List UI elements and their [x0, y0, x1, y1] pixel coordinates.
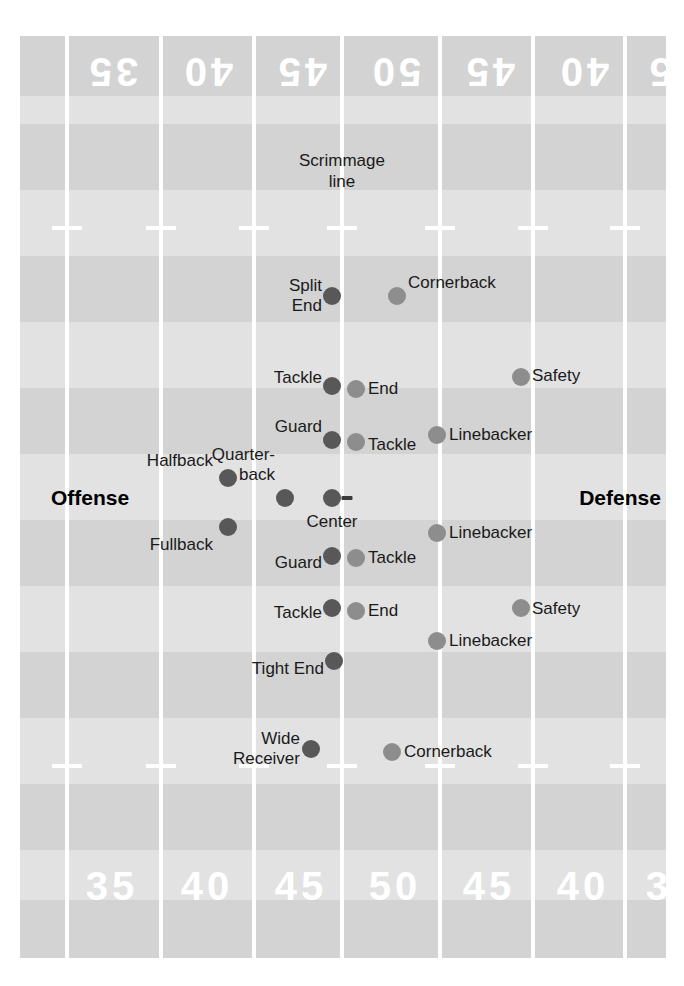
player-label-guard-lower: Guard	[275, 553, 322, 573]
player-marker-end-lower[interactable]	[347, 602, 365, 620]
hash-mark	[146, 764, 176, 768]
yard-number-top: 35	[628, 52, 666, 92]
player-label-tackle-upper: Tackle	[274, 368, 322, 388]
yard-number-top: 35	[68, 52, 156, 92]
player-label-tackle-def-upper: Tackle	[368, 435, 416, 455]
player-marker-fullback[interactable]	[219, 518, 237, 536]
player-label-tight-end: Tight End	[252, 659, 324, 679]
player-label-cornerback-1: Cornerback	[408, 273, 496, 293]
player-marker-tackle-def-lower[interactable]	[347, 549, 365, 567]
player-label-tackle-def-lower: Tackle	[368, 548, 416, 568]
yard-line	[438, 36, 442, 958]
player-marker-end-upper[interactable]	[347, 380, 365, 398]
player-label-safety-upper: Safety	[532, 366, 580, 386]
player-label-tackle-lower: Tackle	[274, 603, 322, 623]
defense-side-label: Defense	[579, 486, 661, 510]
yard-line	[531, 36, 535, 958]
yard-number-bottom: 40	[163, 866, 251, 906]
player-label-wide-receiver: Wide Receiver	[233, 729, 300, 769]
hash-mark	[610, 226, 640, 230]
yard-number-bottom: 40	[539, 866, 627, 906]
yard-number-bottom: 35	[628, 866, 666, 906]
player-marker-cornerback-2[interactable]	[383, 743, 401, 761]
hash-mark	[327, 226, 357, 230]
football-formation-diagram: 3540455045403535404550454035 Scrimmage l…	[0, 0, 684, 986]
hash-mark	[518, 764, 548, 768]
player-label-end-lower: End	[368, 601, 398, 621]
hash-mark	[425, 226, 455, 230]
player-marker-tackle-def-upper[interactable]	[347, 433, 365, 451]
player-marker-guard-upper[interactable]	[323, 431, 341, 449]
player-label-safety-lower: Safety	[532, 599, 580, 619]
player-marker-split-end[interactable]	[323, 287, 341, 305]
player-marker-tackle-upper[interactable]	[323, 377, 341, 395]
player-marker-tight-end[interactable]	[325, 652, 343, 670]
player-label-fullback: Fullback	[150, 535, 213, 555]
yard-number-top: 40	[539, 52, 627, 92]
player-label-linebacker-mid: Linebacker	[449, 523, 532, 543]
player-label-linebacker-upper: Linebacker	[449, 425, 532, 445]
hash-mark	[610, 764, 640, 768]
yard-number-top: 50	[351, 52, 439, 92]
player-marker-guard-lower[interactable]	[323, 547, 341, 565]
player-marker-wide-receiver[interactable]	[302, 740, 320, 758]
player-marker-linebacker-lower[interactable]	[428, 632, 446, 650]
football-icon	[342, 496, 353, 500]
hash-mark	[52, 226, 82, 230]
hash-mark	[518, 226, 548, 230]
yard-number-bottom: 50	[351, 866, 439, 906]
offense-side-label: Offense	[51, 486, 129, 510]
player-marker-linebacker-mid[interactable]	[428, 524, 446, 542]
player-label-quarterback: Quarter- back	[212, 445, 275, 485]
player-marker-cornerback-1[interactable]	[388, 287, 406, 305]
player-marker-safety-lower[interactable]	[512, 599, 530, 617]
player-label-linebacker-lower: Linebacker	[449, 631, 532, 651]
hash-mark	[239, 226, 269, 230]
player-marker-quarterback[interactable]	[276, 489, 294, 507]
yard-number-top: 40	[163, 52, 251, 92]
yard-number-bottom: 45	[257, 866, 345, 906]
hash-mark	[52, 764, 82, 768]
yard-number-top: 45	[445, 52, 533, 92]
player-label-guard-upper: Guard	[275, 417, 322, 437]
player-marker-safety-upper[interactable]	[512, 368, 530, 386]
scrimmage-line-label: Scrimmage line	[299, 150, 385, 192]
yard-line	[252, 36, 256, 958]
player-label-end-upper: End	[368, 379, 398, 399]
hash-mark	[425, 764, 455, 768]
player-marker-tackle-lower[interactable]	[323, 599, 341, 617]
yard-number-top: 45	[257, 52, 345, 92]
player-label-halfback: Halfback	[147, 451, 213, 471]
player-label-split-end: Split End	[289, 276, 322, 316]
player-marker-center[interactable]	[323, 489, 341, 507]
player-marker-linebacker-upper[interactable]	[428, 426, 446, 444]
player-label-cornerback-2: Cornerback	[404, 742, 492, 762]
hash-mark	[327, 764, 357, 768]
yard-number-bottom: 35	[68, 866, 156, 906]
player-label-center: Center	[306, 512, 357, 532]
hash-mark	[146, 226, 176, 230]
yard-number-bottom: 45	[445, 866, 533, 906]
yard-line	[159, 36, 163, 958]
